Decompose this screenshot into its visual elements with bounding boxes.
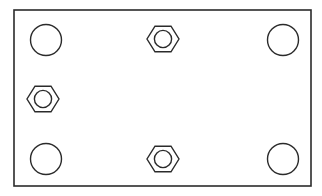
hex-nut-bottom-center-bore [154, 150, 171, 167]
hole-top-left [31, 25, 62, 56]
hole-top-right [268, 25, 299, 56]
technical-drawing-svg [0, 0, 322, 196]
hex-nut-middle-left-bore [34, 90, 51, 107]
hex-nuts-group [27, 26, 179, 172]
technical-drawing-canvas [0, 0, 322, 196]
hex-nut-top-center [147, 26, 179, 52]
hex-nut-middle-left [27, 86, 59, 112]
hex-nut-bottom-center [147, 146, 179, 172]
hole-bottom-left [31, 144, 62, 175]
hole-bottom-right [268, 144, 299, 175]
hex-nut-top-center-bore [154, 30, 171, 47]
